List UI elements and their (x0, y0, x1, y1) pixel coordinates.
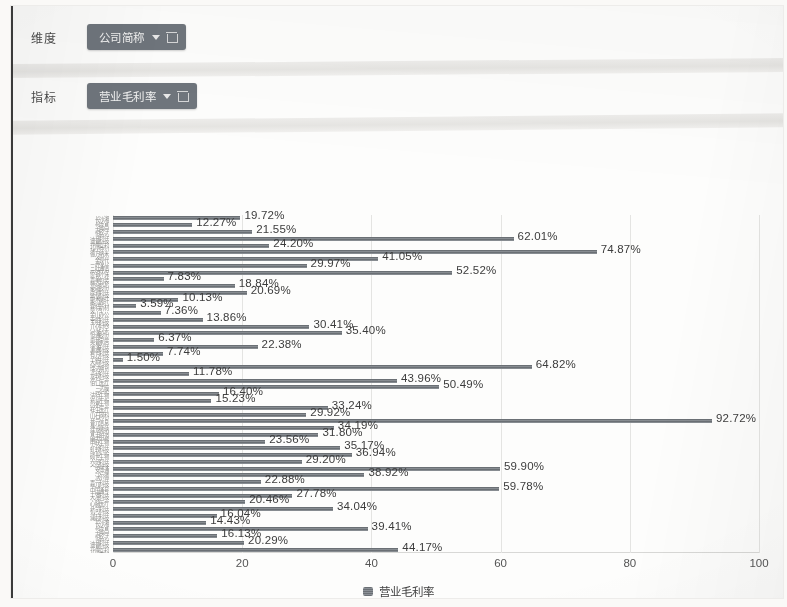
bar[interactable] (113, 399, 211, 403)
bar[interactable] (113, 419, 712, 423)
bar[interactable] (113, 548, 398, 552)
bar[interactable] (113, 311, 161, 315)
bar-row[interactable]: 20.46% (113, 500, 759, 504)
bar-row[interactable]: 59.78% (113, 487, 759, 491)
bar-value-label: 59.78% (503, 480, 543, 492)
bar[interactable] (113, 473, 364, 477)
bar-row[interactable]: 36.94% (113, 453, 759, 457)
trash-icon[interactable] (167, 32, 176, 42)
bar-value-label: 36.94% (356, 446, 396, 458)
bar[interactable] (113, 460, 302, 464)
dimension-field-tag[interactable]: 公司简称 (87, 24, 186, 50)
bar-row[interactable]: 29.97% (113, 264, 759, 268)
bar-row[interactable]: 44.17% (113, 548, 759, 552)
bar[interactable] (113, 521, 206, 525)
bar-row[interactable]: 59.90% (113, 467, 759, 471)
bar-value-label: 6.37% (158, 331, 192, 343)
dashboard-panel: 维度 公司简称 指标 营业毛利率 长沙湘华盛昌恒铭达迪普科技北摩高科德方纳米金现… (11, 6, 783, 598)
bar-row[interactable]: 34.19% (113, 426, 759, 430)
bar-row[interactable]: 13.86% (113, 318, 759, 322)
bar-row[interactable]: 52.52% (113, 271, 759, 275)
bar[interactable] (113, 250, 597, 254)
bar-row[interactable]: 34.04% (113, 507, 759, 511)
bar[interactable] (113, 406, 328, 410)
bar-value-label: 52.52% (456, 264, 496, 276)
bar-value-label: 11.78% (193, 365, 232, 377)
bar[interactable] (113, 264, 307, 268)
bar[interactable] (113, 358, 123, 362)
x-axis-tick-label: 60 (494, 557, 507, 569)
bar-row[interactable]: 1.50% (113, 358, 759, 362)
bar[interactable] (113, 223, 192, 227)
bar[interactable] (113, 446, 340, 450)
trash-icon[interactable] (178, 91, 187, 101)
bar-row[interactable]: 62.01% (113, 237, 759, 241)
bar[interactable] (113, 244, 269, 248)
bar-value-label: 7.36% (165, 304, 199, 316)
bar-row[interactable]: 24.20% (113, 244, 759, 248)
bar[interactable] (113, 514, 217, 518)
metric-field-name: 营业毛利率 (99, 88, 156, 104)
bar[interactable] (113, 318, 203, 322)
bar[interactable] (113, 230, 252, 234)
bar-value-label: 20.29% (248, 534, 288, 546)
bar[interactable] (113, 534, 217, 538)
bar[interactable] (113, 277, 164, 281)
bar-row[interactable]: 27.78% (113, 494, 759, 498)
bar-row[interactable]: 29.92% (113, 413, 759, 417)
bar[interactable] (113, 385, 439, 389)
bar-row[interactable]: 29.20% (113, 460, 759, 464)
bar-row[interactable]: 22.38% (113, 345, 759, 349)
bar-row[interactable]: 3.59% (113, 304, 759, 308)
bar-row[interactable]: 39.41% (113, 527, 759, 531)
bar-row[interactable]: 16.13% (113, 534, 759, 538)
bar-row[interactable]: 74.87% (113, 250, 759, 254)
bar-row[interactable]: 41.05% (113, 257, 759, 261)
bar-row[interactable]: 22.88% (113, 480, 759, 484)
bar-row[interactable]: 7.74% (113, 352, 759, 356)
bar[interactable] (113, 291, 247, 295)
bar[interactable] (113, 331, 342, 335)
bar-row[interactable]: 15.23% (113, 399, 759, 403)
bar-row[interactable]: 33.24% (113, 406, 759, 410)
bar[interactable] (113, 379, 397, 383)
metric-control-row: 指标 营业毛利率 (13, 72, 783, 120)
bar-row[interactable]: 31.80% (113, 433, 759, 437)
x-axis-ticks: 020406080100 (113, 553, 759, 575)
bar[interactable] (113, 440, 265, 444)
bar-row[interactable]: 35.17% (113, 446, 759, 450)
bar-row[interactable]: 12.27% (113, 223, 759, 227)
bar-row[interactable]: 30.41% (113, 325, 759, 329)
bar-row[interactable]: 7.83% (113, 277, 759, 281)
bar-row[interactable]: 92.72% (113, 419, 759, 423)
bar-row[interactable]: 16.40% (113, 392, 759, 396)
bar[interactable] (113, 413, 306, 417)
bar[interactable] (113, 392, 219, 396)
bar-row[interactable]: 6.37% (113, 338, 759, 342)
bar-row[interactable]: 23.56% (113, 440, 759, 444)
bar[interactable] (113, 325, 309, 329)
bar[interactable] (113, 480, 261, 484)
bar-row[interactable]: 21.55% (113, 230, 759, 234)
bar-row[interactable]: 14.43% (113, 521, 759, 525)
bar-row[interactable]: 50.49% (113, 385, 759, 389)
bar-row[interactable]: 38.92% (113, 473, 759, 477)
bar[interactable] (113, 372, 189, 376)
bar-row[interactable]: 35.40% (113, 331, 759, 335)
bar[interactable] (113, 541, 244, 545)
bar[interactable] (113, 500, 245, 504)
bar[interactable] (113, 304, 136, 308)
bar[interactable] (113, 338, 154, 342)
bar[interactable] (113, 271, 452, 275)
bar-value-label: 13.86% (207, 311, 247, 323)
bar[interactable] (113, 284, 235, 288)
chevron-down-icon[interactable] (163, 94, 171, 99)
bar[interactable] (113, 467, 500, 471)
bar-row[interactable]: 18.84% (113, 284, 759, 288)
bar-row[interactable]: 10.13% (113, 298, 759, 302)
bar[interactable] (113, 426, 334, 430)
bar[interactable] (113, 365, 532, 369)
metric-field-tag[interactable]: 营业毛利率 (87, 83, 197, 109)
chevron-down-icon[interactable] (152, 35, 160, 40)
bar-row[interactable]: 43.96% (113, 379, 759, 383)
